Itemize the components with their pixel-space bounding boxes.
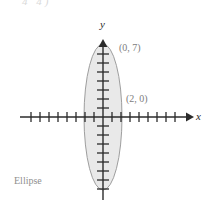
y-axis-label: y <box>100 19 105 30</box>
x-axis-arrowhead <box>186 113 194 122</box>
x-axis-label: x <box>196 111 201 122</box>
ellipse-figure: 4 4) <box>0 0 210 209</box>
vertex-right-label: (2, 0) <box>126 94 148 104</box>
vertex-top-label: (0, 7) <box>119 43 141 53</box>
figure-caption: Ellipse <box>14 176 42 186</box>
y-axis-arrowhead <box>99 39 108 47</box>
